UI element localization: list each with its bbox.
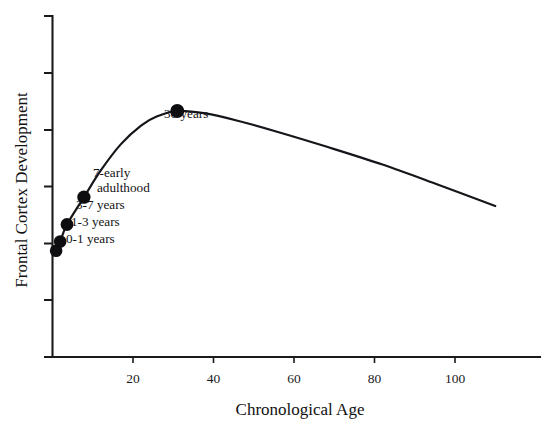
data-point-1-3-years (54, 235, 67, 248)
chart-plot-area: 20 40 60 80 100 7-early adulthood 3-7 ye… (0, 0, 552, 443)
data-label-7-early-adulthood-line1: 7-early (93, 165, 131, 180)
data-label-7-early-adulthood-line2: adulthood (97, 180, 150, 195)
x-axis-title: Chronological Age (236, 400, 365, 419)
x-tick-label-20: 20 (126, 371, 140, 386)
x-tick-label-80: 80 (368, 371, 382, 386)
data-label-1-3-years: 1-3 years (71, 214, 120, 229)
x-tick-label-100: 100 (445, 371, 466, 386)
x-tick-label-60: 60 (287, 371, 301, 386)
y-axis-title: Frontal Cortex Development (12, 92, 31, 288)
frontal-cortex-development-chart: 20 40 60 80 100 7-early adulthood 3-7 ye… (0, 0, 552, 443)
data-label-30-years: 30 years (164, 106, 208, 121)
x-tick-label-40: 40 (207, 371, 221, 386)
data-label-0-1-years: 0-1 years (66, 231, 115, 246)
data-label-3-7-years: 3-7 years (76, 197, 125, 212)
